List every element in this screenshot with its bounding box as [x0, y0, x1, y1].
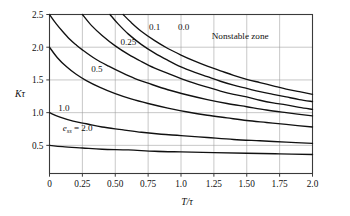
- curve-label-0.25: 0.25: [120, 37, 136, 47]
- curve-label-0.5: 0.5: [91, 64, 103, 74]
- x-axis-title: T/τ: [181, 196, 193, 207]
- y-tick-label: 0.5: [32, 141, 44, 151]
- x-tick-label: 0: [47, 179, 52, 189]
- y-tick-label: 1.0: [32, 108, 44, 118]
- x-tick-labels: 00.250.500.751.01.251.501.752.0: [47, 179, 318, 189]
- curve-label-1.0: 1.0: [58, 103, 70, 113]
- x-tick-label: 1.0: [175, 179, 187, 189]
- curve-label-0.0: 0.0: [178, 22, 190, 32]
- ess-annotation: ess= 2.0: [63, 123, 93, 134]
- curve-label-0.1: 0.1: [149, 22, 160, 32]
- y-tick-label: 2.5: [32, 10, 44, 20]
- x-tick-label: 2.0: [307, 179, 319, 189]
- y-axis-title: Kτ: [14, 88, 26, 99]
- line-chart: 00.250.500.751.01.251.501.752.0 0.51.01.…: [0, 0, 350, 216]
- y-tick-labels: 0.51.01.52.02.5: [32, 10, 44, 151]
- x-tick-label: 1.75: [271, 179, 288, 189]
- y-tick-label: 1.5: [32, 75, 44, 85]
- chart-container: 00.250.500.751.01.251.501.752.0 0.51.01.…: [0, 0, 350, 216]
- x-tick-label: 1.50: [239, 179, 256, 189]
- x-tick-label: 0.50: [107, 179, 124, 189]
- curve-labels: 0.00.10.250.51.0: [58, 22, 189, 113]
- x-tick-label: 0.25: [74, 179, 91, 189]
- nonstable-zone-annotation: Nonstable zone: [212, 31, 269, 41]
- y-tick-label: 2.0: [32, 43, 44, 53]
- ess-subscript: ss: [67, 127, 72, 134]
- x-tick-label: 0.75: [140, 179, 157, 189]
- x-tick-label: 1.25: [206, 179, 223, 189]
- ess-value: = 2.0: [74, 123, 93, 133]
